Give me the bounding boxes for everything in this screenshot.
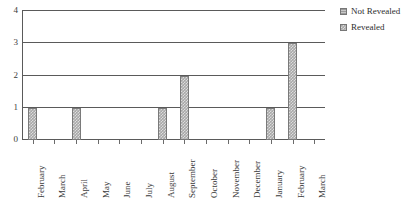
bar bbox=[72, 108, 81, 140]
x-axis-label: November bbox=[232, 160, 241, 198]
bar bbox=[28, 108, 37, 140]
x-axis-label: March bbox=[318, 175, 327, 199]
x-axis-label: June bbox=[123, 182, 132, 199]
bar bbox=[288, 43, 297, 140]
y-tick-label-3: 3 bbox=[2, 38, 18, 47]
bar bbox=[180, 76, 189, 141]
bar bbox=[266, 108, 275, 140]
bar-chart: 4 3 2 1 0 FebruaryMarchAprilMayJuneJulyA… bbox=[0, 0, 409, 201]
legend-swatch-icon-not-revealed bbox=[340, 8, 347, 15]
legend-item-revealed[interactable]: Revealed bbox=[340, 19, 409, 35]
x-axis-label: August bbox=[167, 172, 176, 198]
y-axis-tick-labels: 4 3 2 1 0 bbox=[0, 0, 18, 150]
y-tick-label-0: 0 bbox=[2, 135, 18, 144]
legend-item-not-revealed[interactable]: Not Revealed bbox=[340, 3, 409, 19]
x-axis-label: March bbox=[58, 175, 67, 199]
x-axis-label: January bbox=[275, 170, 284, 198]
x-axis-label: July bbox=[145, 183, 154, 198]
bars-layer bbox=[22, 10, 325, 140]
y-tick-label-1: 1 bbox=[2, 103, 18, 112]
chart-legend: Not Revealed Revealed bbox=[340, 3, 409, 35]
x-axis-label: May bbox=[102, 182, 111, 199]
legend-label-not-revealed: Not Revealed bbox=[351, 6, 400, 16]
x-axis-label: October bbox=[210, 169, 219, 198]
x-axis-label: February bbox=[37, 166, 46, 199]
bar bbox=[158, 108, 167, 140]
y-tick-label-2: 2 bbox=[2, 71, 18, 80]
y-tick-label-4: 4 bbox=[2, 6, 18, 15]
legend-label-revealed: Revealed bbox=[351, 22, 384, 32]
legend-swatch-icon-revealed bbox=[340, 24, 347, 31]
x-axis-label: April bbox=[80, 179, 89, 198]
x-axis-label: February bbox=[297, 166, 306, 199]
x-axis-labels: FebruaryMarchAprilMayJuneJulyAugustSepte… bbox=[22, 144, 325, 201]
x-axis-label: December bbox=[253, 161, 262, 198]
x-axis-label: September bbox=[188, 160, 197, 199]
